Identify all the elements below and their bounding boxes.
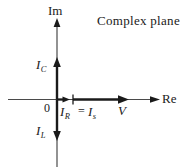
is-vector-label: Is: [88, 105, 96, 120]
is-subscript: s: [92, 111, 96, 121]
il-subscript: L: [40, 130, 45, 140]
ic-subscript: C: [40, 64, 46, 74]
equality-sign: =: [78, 105, 85, 117]
figure-title: Complex plane: [97, 14, 180, 27]
ir-vector-arrowhead-icon: [63, 96, 71, 102]
ic-vector-arrowhead-icon: [53, 57, 61, 67]
real-axis-label: Re: [162, 92, 176, 105]
origin-label: 0: [44, 102, 50, 114]
il-vector-arrowhead-icon: [53, 131, 61, 141]
imaginary-axis-label: Im: [48, 4, 62, 17]
complex-plane-phasor-diagram: Im Re Complex plane 0 IC IL IR = Is V: [0, 0, 191, 167]
v-vector-label: V: [118, 104, 126, 117]
il-vector-label: IL: [36, 124, 45, 139]
imaginary-axis-arrowhead-icon: [54, 18, 61, 27]
ir-vector-label: IR: [60, 105, 70, 120]
ir-subscript: R: [64, 111, 70, 121]
real-axis-arrowhead-icon: [150, 96, 160, 103]
ic-vector-label: IC: [36, 58, 46, 73]
